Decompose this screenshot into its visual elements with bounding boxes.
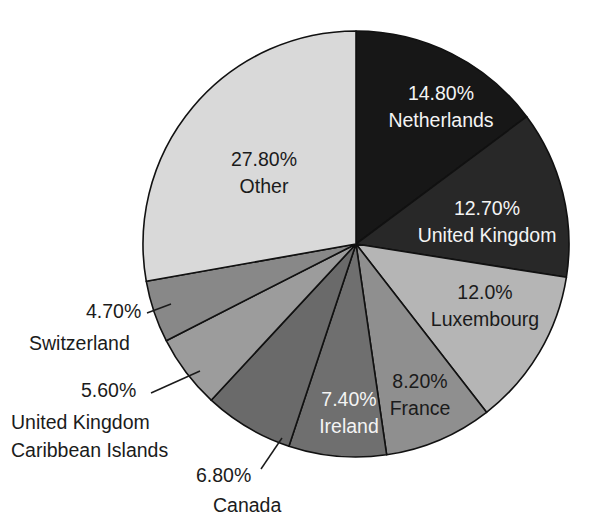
uk-caribbean-name-line2: Caribbean Islands — [11, 439, 168, 461]
leader-line-uk-caribbean — [151, 371, 200, 393]
slice-label-switzerland: 4.70% Switzerland — [29, 300, 141, 354]
leader-line-canada — [261, 438, 282, 469]
switzerland-percent: 4.70% — [86, 300, 141, 322]
slice-label-uk-caribbean: 5.60% United Kingdom Caribbean Islands — [11, 379, 168, 461]
france-percent: 8.20% — [392, 370, 447, 392]
uk-caribbean-name-line1: United Kingdom — [11, 411, 150, 433]
luxembourg-name: Luxembourg — [431, 308, 539, 330]
switzerland-name: Switzerland — [29, 332, 130, 354]
ireland-percent: 7.40% — [321, 388, 376, 410]
united-kingdom-name: United Kingdom — [418, 224, 557, 246]
netherlands-percent: 14.80% — [408, 82, 474, 104]
united-kingdom-percent: 12.70% — [454, 197, 520, 219]
france-name: France — [390, 397, 451, 419]
slice-label-canada: 6.80% Canada — [196, 464, 281, 516]
pie-chart-figure: 14.80% Netherlands 12.70% United Kingdom… — [0, 0, 591, 530]
uk-caribbean-percent: 5.60% — [81, 379, 136, 401]
pie-chart-svg: 14.80% Netherlands 12.70% United Kingdom… — [0, 0, 591, 530]
canada-name: Canada — [213, 494, 281, 516]
other-percent: 27.80% — [231, 148, 297, 170]
ireland-name: Ireland — [319, 415, 379, 437]
luxembourg-percent: 12.0% — [457, 281, 512, 303]
netherlands-name: Netherlands — [388, 109, 493, 131]
other-name: Other — [240, 175, 289, 197]
canada-percent: 6.80% — [196, 464, 251, 486]
